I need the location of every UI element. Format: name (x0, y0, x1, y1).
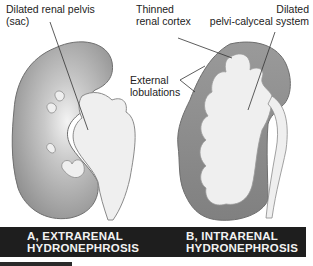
label-line: Thinned (136, 3, 191, 15)
kidney-a (12, 22, 135, 220)
label-line: Dilated (210, 3, 309, 15)
label-line: renal cortex (136, 15, 191, 27)
kidney-illustrations (0, 0, 313, 227)
label-thinned-renal-cortex: Thinned renal cortex (136, 3, 191, 27)
caption-b: B, INTRARENAL HYDRONEPHROSIS (186, 230, 298, 254)
lobulation-leader-line-lower (180, 80, 195, 92)
label-line: Dilated renal pelvis (6, 3, 95, 15)
caption-line: A, EXTRARENAL (27, 230, 139, 242)
label-line: lobulations (130, 86, 180, 98)
label-dilated-renal-pelvis: Dilated renal pelvis (sac) (6, 3, 95, 27)
label-line: (sac) (6, 15, 95, 27)
label-external-lobulations: External lobulations (130, 74, 180, 98)
caption-a: A, EXTRARENAL HYDRONEPHROSIS (27, 230, 139, 254)
kidney-b (178, 32, 291, 220)
caption-line: B, INTRARENAL (186, 230, 298, 242)
label-line: External (130, 74, 180, 86)
bottom-strip (0, 262, 72, 266)
label-dilated-pelvi-calyceal-system: Dilated pelvi-calyceal system (210, 3, 309, 27)
caption-bar: A, EXTRARENAL HYDRONEPHROSIS B, INTRAREN… (0, 227, 306, 257)
caption-line: HYDRONEPHROSIS (27, 242, 139, 254)
label-line: pelvi-calyceal system (210, 15, 309, 27)
caption-line: HYDRONEPHROSIS (186, 242, 298, 254)
